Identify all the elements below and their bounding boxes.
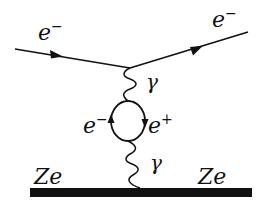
- incoming-electron-line: [15, 49, 130, 68]
- label-photon-bottom: γ: [150, 151, 162, 175]
- arrow-icon: [190, 46, 203, 56]
- pair-loop: [108, 101, 149, 141]
- photon-top-line: [124, 68, 136, 101]
- feynman-diagram: e− e− γ e− e+ γ Ze Ze: [0, 0, 262, 208]
- label-outgoing-electron: e−: [212, 5, 237, 32]
- label-photon-top: γ: [146, 70, 158, 94]
- label-incoming-electron: e−: [38, 18, 63, 45]
- label-nucleus-right: Ze: [197, 164, 226, 189]
- arrow-icon: [108, 114, 115, 123]
- label-loop-positron: e+: [148, 111, 173, 138]
- nucleus-bar: [30, 188, 252, 197]
- label-nucleus-left: Ze: [33, 164, 62, 189]
- outgoing-electron-line: [130, 32, 248, 68]
- photon-bottom-line: [126, 141, 140, 188]
- label-loop-electron: e−: [83, 111, 108, 138]
